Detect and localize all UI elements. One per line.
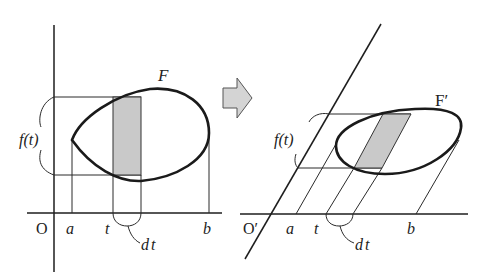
right-b-dropline: [416, 140, 459, 214]
right-region-label: F′: [435, 91, 448, 110]
left-dt-label: dt: [141, 236, 157, 253]
left-shaded-slice: [113, 97, 141, 175]
right-dt-label: dt: [355, 236, 371, 253]
right-panel: F′ f(t) O′ a t b dt: [240, 24, 468, 259]
left-t-label: t: [105, 220, 110, 237]
right-a-label: a: [286, 220, 294, 237]
left-a-label: a: [66, 220, 74, 237]
right-origin-label: O′: [243, 220, 258, 237]
left-panel: F f(t) O a t b dt: [19, 25, 222, 272]
right-dt-leader: [340, 226, 354, 243]
left-ft-label: f(t): [19, 131, 39, 149]
right-t-label: t: [314, 220, 319, 237]
right-dt-brace: [326, 214, 353, 226]
right-slanted-axis: [245, 24, 381, 259]
left-ft-brace: [40, 97, 54, 175]
left-origin-label: O: [36, 220, 48, 237]
left-region-label: F: [157, 66, 169, 85]
right-t-dropline: [326, 168, 354, 214]
right-b-label: b: [407, 220, 415, 237]
right-shaded-slice: [354, 114, 411, 168]
right-arrow-icon: [223, 78, 252, 118]
right-ft-label: f(t): [274, 131, 294, 149]
left-dt-leader: [128, 226, 140, 243]
right-a-dropline: [296, 144, 336, 214]
left-b-label: b: [203, 220, 211, 237]
shear-diagram: F f(t) O a t b dt F′ f(t) O: [0, 0, 487, 278]
left-dt-brace: [113, 213, 141, 226]
